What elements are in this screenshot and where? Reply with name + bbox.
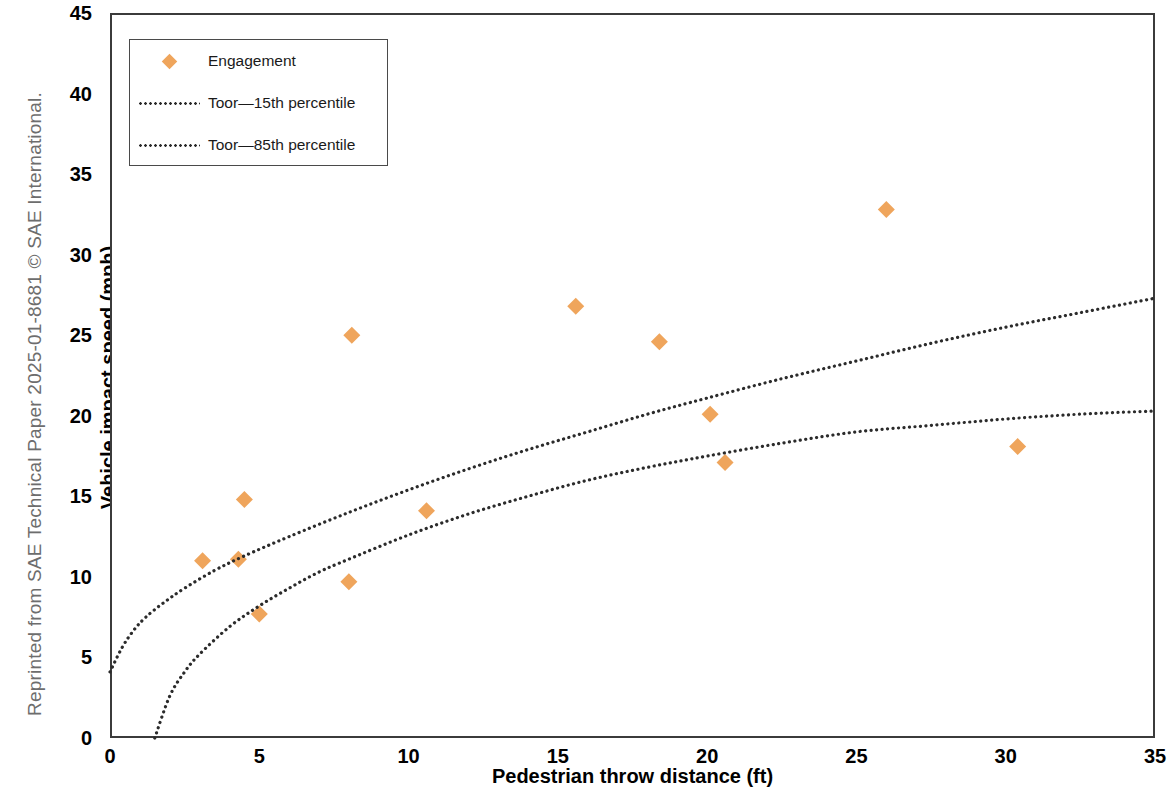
legend-key-2 — [130, 144, 208, 147]
y-axis-tick-10: 10 — [32, 565, 92, 588]
x-axis-label: Pedestrian throw distance (ft) — [110, 765, 1155, 788]
legend-label-2: Toor—85th percentile — [208, 136, 355, 154]
legend-item-1: Toor—15th percentile — [130, 82, 387, 124]
y-axis-tick-20: 20 — [32, 404, 92, 427]
y-axis-tick-30: 30 — [32, 243, 92, 266]
y-axis-tick-45: 45 — [32, 2, 92, 25]
y-axis-tick-15: 15 — [32, 485, 92, 508]
dotted-line-icon — [138, 102, 200, 105]
legend-key-0 — [130, 56, 208, 67]
y-axis-tick-5: 5 — [32, 646, 92, 669]
y-axis-tick-35: 35 — [32, 163, 92, 186]
legend-key-1 — [130, 102, 208, 105]
diamond-marker-icon — [161, 53, 177, 69]
y-axis-tick-25: 25 — [32, 324, 92, 347]
chart-legend: EngagementToor—15th percentileToor—85th … — [129, 39, 388, 166]
y-axis-tick-40: 40 — [32, 82, 92, 105]
y-axis-tick-container: 051015202530354045 — [30, 0, 92, 805]
dotted-line-icon — [138, 144, 200, 147]
legend-item-0: Engagement — [130, 40, 387, 82]
legend-label-1: Toor—15th percentile — [208, 94, 355, 112]
chart-figure: Reprinted from SAE Technical Paper 2025-… — [0, 0, 1173, 805]
legend-item-2: Toor—85th percentile — [130, 124, 387, 166]
legend-label-0: Engagement — [208, 52, 296, 70]
